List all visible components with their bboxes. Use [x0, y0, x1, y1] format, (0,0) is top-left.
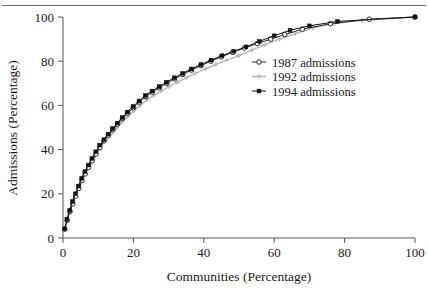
data-point-marker	[111, 127, 115, 131]
data-point-marker	[120, 116, 124, 120]
x-axis-ticks: 020406080100	[60, 238, 425, 260]
data-point-marker	[181, 71, 185, 75]
data-point-marker	[150, 89, 154, 93]
data-point-marker	[63, 227, 67, 231]
data-point-marker	[258, 39, 262, 43]
y-tick-label: 80	[41, 54, 54, 69]
data-point-marker	[137, 99, 141, 103]
data-point-marker	[115, 121, 119, 125]
data-point-marker	[106, 132, 110, 136]
x-tick-label: 80	[338, 245, 351, 260]
data-point-marker	[336, 20, 340, 24]
data-point-marker	[190, 67, 194, 71]
concentration-curve-chart: 020406080100 020406080100 1987 admission…	[0, 0, 428, 291]
data-point-marker	[80, 176, 84, 180]
data-point-marker	[98, 143, 102, 147]
data-point-marker	[172, 76, 176, 80]
chart-legend: 1987 admissions1992 admissions1994 admis…	[252, 56, 356, 99]
legend-label: 1994 admissions	[272, 85, 356, 99]
data-point-marker	[209, 58, 213, 62]
data-point-marker	[308, 24, 312, 28]
x-tick-label: 100	[405, 245, 425, 260]
data-series-group	[62, 15, 417, 232]
legend-item-1992: 1992 admissions	[252, 70, 356, 84]
data-point-marker	[86, 163, 90, 167]
data-point-marker	[83, 170, 87, 174]
data-point-marker	[94, 150, 98, 154]
data-point-marker	[220, 54, 224, 58]
data-point-marker	[288, 28, 292, 32]
y-axis-title: Admissions (Percentage)	[5, 60, 20, 195]
y-tick-label: 100	[35, 10, 55, 25]
data-point-marker	[413, 15, 417, 19]
data-point-marker	[73, 192, 77, 196]
data-point-marker	[77, 184, 81, 188]
x-axis-title: Communities (Percentage)	[167, 269, 311, 284]
x-tick-label: 60	[268, 245, 281, 260]
data-point-marker	[126, 110, 130, 114]
data-point-marker	[272, 34, 276, 38]
legend-label: 1992 admissions	[272, 70, 356, 84]
y-tick-label: 20	[41, 186, 54, 201]
data-point-marker	[102, 138, 106, 142]
data-point-marker	[65, 217, 69, 221]
y-tick-label: 40	[41, 142, 54, 157]
data-point-marker	[257, 60, 262, 65]
legend-item-1994: 1994 admissions	[252, 85, 356, 99]
data-point-marker	[157, 85, 161, 89]
data-point-marker	[165, 80, 169, 84]
x-tick-label: 20	[127, 245, 140, 260]
y-tick-label: 60	[41, 98, 54, 113]
data-point-marker	[71, 200, 75, 204]
legend-label: 1987 admissions	[272, 56, 356, 70]
data-point-marker	[68, 208, 72, 212]
data-point-marker	[244, 45, 248, 49]
data-point-marker	[257, 89, 261, 93]
legend-item-1987: 1987 admissions	[252, 56, 356, 70]
data-point-marker	[199, 63, 203, 67]
data-point-marker	[143, 94, 147, 98]
x-tick-label: 40	[197, 245, 210, 260]
y-tick-label: 0	[48, 231, 55, 246]
y-axis-ticks: 020406080100	[35, 10, 64, 246]
x-tick-label: 0	[60, 245, 67, 260]
series-1994	[63, 15, 417, 231]
data-point-marker	[131, 105, 135, 109]
chart-figure: 020406080100 020406080100 1987 admission…	[0, 0, 428, 291]
data-point-marker	[90, 157, 94, 161]
data-point-marker	[232, 49, 236, 53]
